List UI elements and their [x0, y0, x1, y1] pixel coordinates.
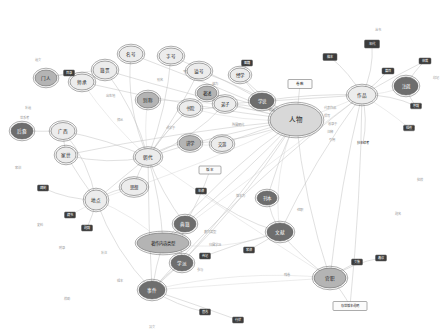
- node-shape-rect[interactable]: [411, 103, 422, 109]
- graph-node-r02[interactable]: 版本: [199, 166, 221, 174]
- graph-node-r07[interactable]: 辑佚: [404, 125, 415, 131]
- graph-node-r17[interactable]: 行状: [233, 317, 244, 323]
- node-shape-ellipse[interactable]: [197, 86, 217, 100]
- node-shape-ellipse[interactable]: [11, 123, 33, 139]
- graph-node-n10[interactable]: 学派: [169, 253, 195, 273]
- node-shape-rect[interactable]: [82, 225, 93, 231]
- graph-node-n21[interactable]: 后裔: [9, 121, 35, 141]
- node-shape-ellipse[interactable]: [159, 48, 183, 64]
- node-shape-ellipse[interactable]: [214, 97, 236, 112]
- graph-node-r19[interactable]: 图籍: [242, 60, 253, 66]
- graph-node-n29[interactable]: 注疏: [392, 75, 420, 97]
- graph-node-n06[interactable]: 官职: [312, 266, 348, 290]
- node-shape-rect[interactable]: [200, 253, 211, 259]
- graph-node-r11[interactable]: 年谱: [196, 188, 207, 194]
- graph-node-n28[interactable]: 经学: [228, 66, 252, 84]
- node-shape-ellipse[interactable]: [137, 92, 159, 108]
- graph-node-n13[interactable]: 名号: [117, 44, 145, 64]
- node-shape-rect[interactable]: [244, 247, 255, 253]
- node-shape-ellipse[interactable]: [179, 136, 201, 151]
- node-shape-ellipse[interactable]: [211, 137, 233, 152]
- graph-node-n26[interactable]: 学说: [248, 91, 276, 111]
- graph-node-n12[interactable]: 籍贯: [91, 59, 119, 81]
- node-shape-ellipse[interactable]: [314, 268, 346, 288]
- graph-node-r22[interactable]: 存世版本说明: [333, 302, 367, 311]
- node-shape-rect[interactable]: [199, 166, 221, 174]
- node-shape-rect[interactable]: [376, 255, 387, 261]
- node-shape-ellipse[interactable]: [179, 101, 201, 116]
- node-shape-rect[interactable]: [200, 309, 211, 315]
- node-shape-ellipse[interactable]: [230, 68, 250, 82]
- node-shape-ellipse[interactable]: [348, 86, 376, 104]
- graph-node-n15[interactable]: 谥号: [185, 61, 213, 81]
- graph-node-r13[interactable]: 家谱: [244, 247, 255, 253]
- node-shape-ellipse[interactable]: [257, 191, 277, 205]
- graph-node-n02[interactable]: 作品: [346, 84, 378, 106]
- node-shape-rect[interactable]: [323, 54, 337, 61]
- graph-node-r01[interactable]: 卷数: [288, 80, 312, 89]
- node-shape-ellipse[interactable]: [56, 147, 76, 163]
- graph-node-n01[interactable]: 人物: [268, 102, 324, 138]
- node-shape-rect[interactable]: [404, 125, 415, 131]
- node-shape-ellipse[interactable]: [35, 70, 57, 86]
- graph-node-n05[interactable]: 事件: [137, 279, 167, 301]
- graph-node-n14[interactable]: 字号: [157, 46, 185, 66]
- node-shape-rect[interactable]: [38, 185, 49, 191]
- graph-node-r03[interactable]: 年代: [365, 40, 380, 48]
- graph-node-n08[interactable]: 典籍: [172, 214, 198, 234]
- node-shape-ellipse[interactable]: [121, 179, 147, 196]
- graph-node-n27[interactable]: 著述: [195, 84, 219, 102]
- node-shape-ellipse[interactable]: [51, 123, 75, 140]
- graph-node-n30[interactable]: 刊本: [255, 189, 279, 207]
- node-shape-ellipse[interactable]: [119, 46, 143, 62]
- graph-node-r18[interactable]: 目录: [64, 70, 75, 76]
- graph-node-r16[interactable]: 墓志: [200, 309, 211, 315]
- graph-node-r08[interactable]: 藏书: [65, 212, 76, 218]
- node-shape-ellipse[interactable]: [70, 74, 94, 90]
- graph-node-n03[interactable]: 朝代: [133, 147, 163, 168]
- node-shape-ellipse[interactable]: [187, 63, 211, 79]
- graph-node-r10[interactable]: 题跋: [82, 225, 93, 231]
- knowledge-graph-svg[interactable]: 所属朝代代表作品撰写收录于注释引用师从讲学于任职出生地参与版本为别名字为谥为归属…: [0, 0, 448, 336]
- graph-node-n07[interactable]: 文献: [265, 221, 295, 243]
- graph-node-r15[interactable]: 奏议: [376, 255, 387, 261]
- graph-node-r14[interactable]: 文集: [352, 259, 363, 265]
- node-shape-ellipse[interactable]: [137, 233, 189, 253]
- graph-node-r05[interactable]: 体裁: [419, 58, 431, 64]
- node-shape-ellipse[interactable]: [139, 281, 165, 299]
- graph-node-n09[interactable]: 著作内容类型: [135, 231, 191, 255]
- node-shape-rect[interactable]: [382, 68, 394, 74]
- node-shape-ellipse[interactable]: [85, 190, 107, 210]
- graph-node-r04[interactable]: 篇目: [382, 68, 394, 74]
- node-shape-rect[interactable]: [242, 60, 253, 66]
- node-shape-rect[interactable]: [419, 58, 431, 64]
- graph-node-n19[interactable]: 家世: [54, 145, 78, 165]
- node-shape-ellipse[interactable]: [250, 93, 274, 109]
- graph-node-n17[interactable]: 门人: [33, 68, 59, 88]
- graph-node-r20[interactable]: 稿本: [323, 54, 337, 61]
- node-shape-ellipse[interactable]: [394, 77, 418, 95]
- graph-node-r12[interactable]: 传记: [200, 253, 211, 259]
- node-shape-ellipse[interactable]: [135, 149, 161, 166]
- node-shape-rect[interactable]: [196, 188, 207, 194]
- node-shape-ellipse[interactable]: [174, 216, 196, 232]
- graph-node-n23[interactable]: 讲学: [177, 134, 203, 153]
- node-shape-ellipse[interactable]: [267, 223, 293, 241]
- graph-node-n04[interactable]: 地点: [83, 188, 109, 212]
- node-shape-rect[interactable]: [352, 259, 363, 265]
- graph-node-n22[interactable]: 书院: [177, 99, 203, 118]
- node-shape-rect[interactable]: [333, 302, 367, 311]
- graph-node-n24[interactable]: 弟子: [212, 95, 238, 114]
- node-shape-rect[interactable]: [65, 212, 76, 218]
- node-shape-rect[interactable]: [233, 317, 244, 323]
- graph-node-r06[interactable]: 序跋: [411, 103, 422, 109]
- graph-node-n11[interactable]: 思想: [119, 177, 149, 198]
- graph-node-n25[interactable]: 交游: [209, 135, 235, 154]
- node-shape-ellipse[interactable]: [171, 255, 193, 271]
- node-shape-ellipse[interactable]: [270, 104, 322, 136]
- graph-node-n20[interactable]: 广西: [49, 121, 77, 142]
- node-shape-rect[interactable]: [365, 40, 380, 48]
- nodes-layer[interactable]: 人物作品朝代地点事件官职文献典籍著作内容类型学派思想籍贯名号字号谥号别称门人师承…: [9, 40, 431, 323]
- node-shape-ellipse[interactable]: [93, 61, 117, 79]
- node-shape-rect[interactable]: [288, 80, 312, 89]
